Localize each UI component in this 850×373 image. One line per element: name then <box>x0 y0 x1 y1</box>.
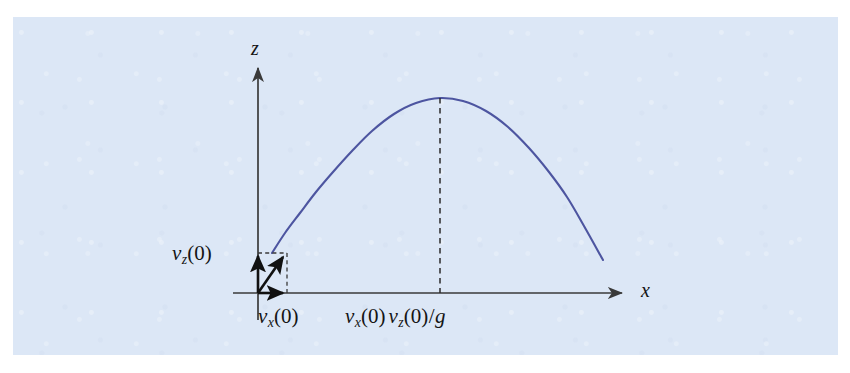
trajectory-curve-group <box>272 98 603 260</box>
resultant-velocity-arrow <box>258 257 283 293</box>
projectile-trajectory-figure: vz(0) vx(0) vx(0)vz(0)/g x z <box>0 0 850 373</box>
apex-g: g <box>435 304 446 328</box>
apex-arg1: (0) <box>361 304 386 328</box>
x-axis-label: x <box>641 280 650 300</box>
vx-argument: (0) <box>274 304 299 328</box>
apex-v2: v <box>388 304 397 328</box>
dashed-guides-group <box>258 98 440 293</box>
velocity-vectors-group <box>258 256 283 293</box>
z-axis-label: z <box>251 38 259 58</box>
label-vz-zero: vz(0) <box>172 243 212 267</box>
trajectory-curve <box>272 98 603 260</box>
apex-arg2: (0) <box>404 304 429 328</box>
vz-v: v <box>172 241 181 265</box>
label-vx-zero: vx(0) <box>258 306 298 330</box>
axes-group <box>233 68 622 320</box>
vz-argument: (0) <box>187 241 212 265</box>
apex-v1: v <box>345 304 354 328</box>
label-apex-position: vx(0)vz(0)/g <box>345 306 446 330</box>
vx-v: v <box>258 304 267 328</box>
